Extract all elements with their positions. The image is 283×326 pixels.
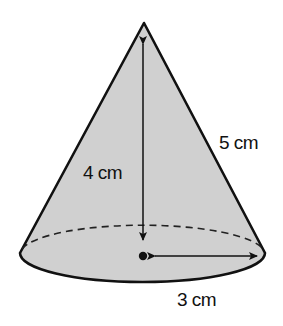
height-label: 4 cm <box>83 163 122 182</box>
cone-diagram <box>0 0 283 326</box>
radius-label: 3 cm <box>177 290 216 309</box>
base-center-point <box>139 252 147 260</box>
slant-height-label: 5 cm <box>219 133 258 152</box>
